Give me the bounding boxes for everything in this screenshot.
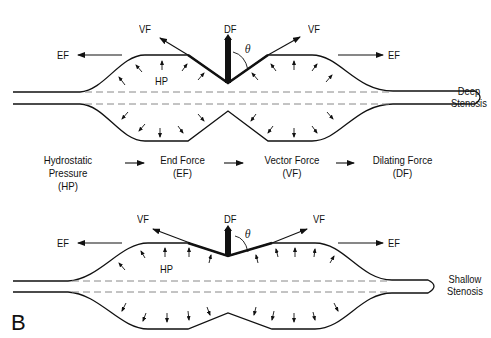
vf-right-label: VF — [308, 23, 320, 35]
caption-line-1: Deep — [451, 85, 487, 97]
caption-line-1: Shallow — [447, 273, 483, 285]
vf-left-label: VF — [139, 23, 151, 35]
theta-label-bottom: θ — [245, 229, 251, 241]
shallow-stenosis-caption: Shallow Stenosis — [447, 273, 483, 297]
ef-right-label: EF — [388, 49, 400, 61]
flow-name: End Force — [154, 154, 211, 167]
caption-line-2: Stenosis — [451, 97, 487, 109]
hp-label-bottom: HP — [160, 263, 173, 275]
df-arrow-top — [225, 38, 231, 83]
caption-line-2: Stenosis — [447, 285, 483, 297]
theta-label: θ — [245, 44, 251, 56]
flow-step-vf: Vector Force (VF) — [257, 154, 327, 180]
vf-right-label-bottom: VF — [313, 213, 325, 225]
deep-stenosis-caption: Deep Stenosis — [451, 85, 487, 109]
vf-left-label-bottom: VF — [137, 213, 149, 225]
df-label: DF — [224, 23, 236, 35]
flow-name: Hydrostatic Pressure — [24, 154, 112, 180]
ef-left-label-bottom: EF — [57, 237, 69, 249]
deep-stenosis-balloon — [13, 55, 480, 141]
ef-left-label: EF — [57, 49, 69, 61]
ef-right-label-bottom: EF — [388, 237, 400, 249]
flow-abbr: (HP) — [24, 180, 112, 193]
flow-abbr: (VF) — [257, 167, 327, 180]
flow-name: Vector Force — [257, 154, 327, 167]
flow-step-df: Dilating Force (DF) — [365, 154, 440, 180]
df-arrow-bottom — [225, 229, 231, 256]
flow-abbr: (EF) — [154, 167, 211, 180]
df-label-bottom: DF — [224, 213, 236, 225]
flow-step-hp: Hydrostatic Pressure (HP) — [24, 154, 112, 193]
hp-label: HP — [155, 75, 168, 87]
flow-name: Dilating Force — [365, 154, 440, 167]
flow-step-ef: End Force (EF) — [154, 154, 211, 180]
flow-abbr: (DF) — [365, 167, 440, 180]
panel-label: B — [11, 310, 26, 336]
